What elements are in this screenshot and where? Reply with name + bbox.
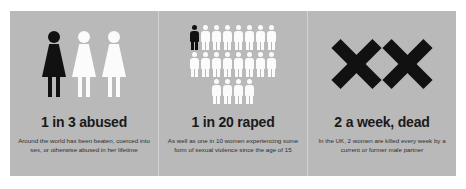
figure-leg-right <box>239 95 242 104</box>
person-figure <box>201 52 210 77</box>
figure-leg-left <box>108 77 112 97</box>
panel-headline: 1 in 3 abused <box>41 114 127 130</box>
figure-head <box>258 25 263 30</box>
figure-leg-left <box>268 41 271 50</box>
figure-leg-right <box>250 95 253 104</box>
person-figure-highlighted <box>190 25 199 50</box>
woman-figure <box>101 31 127 97</box>
figure-head <box>78 31 90 43</box>
panel-abused: 1 in 3 abused Around the world has been … <box>10 11 158 176</box>
figure-leg-right <box>239 41 242 50</box>
figure-leg-left <box>213 95 216 104</box>
figure-leg-left <box>48 77 52 97</box>
figure-leg-right <box>228 68 231 77</box>
figure-head <box>247 79 252 84</box>
figure-leg-right <box>56 77 60 97</box>
panel-caption: As well as one in 10 women experiencing … <box>167 136 299 154</box>
person-figure <box>256 25 265 50</box>
figure-head <box>225 52 230 57</box>
panel-caption: In the UK, 2 women are killed every week… <box>316 136 448 154</box>
twenty-people-icon <box>165 18 301 110</box>
figure-leg-left <box>202 68 205 77</box>
figure-leg-left <box>246 95 249 104</box>
person-figure <box>245 79 254 104</box>
person-figure <box>223 25 232 50</box>
figure-head <box>225 79 230 84</box>
figure-head <box>269 25 274 30</box>
figure-leg-left <box>235 95 238 104</box>
figure-head <box>236 79 241 84</box>
woman-figure <box>71 31 97 97</box>
figure-leg-right <box>217 41 220 50</box>
figure-head <box>269 52 274 57</box>
figure-head <box>192 25 197 30</box>
figure-leg-right <box>228 95 231 104</box>
figure-head <box>236 52 241 57</box>
panel-raped: 1 in 20 raped As well as one in 10 women… <box>158 11 307 176</box>
person-figure <box>201 25 210 50</box>
figure-head <box>192 52 197 57</box>
figure-leg-right <box>217 68 220 77</box>
figure-head <box>258 52 263 57</box>
figure-leg-left <box>202 41 205 50</box>
person-figure <box>223 79 232 104</box>
figure-head <box>247 25 252 30</box>
figure-body <box>72 44 96 77</box>
figure-head <box>48 31 60 43</box>
figure-head <box>225 25 230 30</box>
figure-head <box>108 31 120 43</box>
people-figure-grid <box>190 25 276 104</box>
person-figure <box>267 25 276 50</box>
panel-headline: 2 a week, dead <box>334 114 429 130</box>
figure-leg-right <box>86 77 90 97</box>
figure-leg-right <box>250 68 253 77</box>
x-mark-icon <box>334 41 380 87</box>
figure-leg-left <box>235 68 238 77</box>
figure-leg-left <box>224 68 227 77</box>
figure-body <box>102 44 126 77</box>
three-women-icon <box>16 18 152 110</box>
figure-leg-right <box>272 41 275 50</box>
figure-leg-right <box>250 41 253 50</box>
infographic-card: 1 in 3 abused Around the world has been … <box>10 11 456 176</box>
panel-headline: 1 in 20 raped <box>192 114 275 130</box>
figure-leg-left <box>224 41 227 50</box>
figure-body <box>42 44 66 77</box>
figure-leg-left <box>246 68 249 77</box>
figure-head <box>203 25 208 30</box>
person-figure <box>212 52 221 77</box>
figure-leg-left <box>246 41 249 50</box>
woman-figure-highlighted <box>41 31 67 97</box>
people-figure-row <box>190 52 276 77</box>
panel-dead: 2 a week, dead In the UK, 2 women are ki… <box>307 11 456 176</box>
infographic-page: 1 in 3 abused Around the world has been … <box>0 0 466 189</box>
person-figure <box>223 52 232 77</box>
figure-leg-left <box>191 41 194 50</box>
person-figure <box>212 25 221 50</box>
figure-head <box>214 79 219 84</box>
figure-head <box>214 52 219 57</box>
figure-leg-right <box>228 41 231 50</box>
person-figure <box>256 52 265 77</box>
figure-head <box>236 25 241 30</box>
person-figure <box>234 79 243 104</box>
person-figure <box>212 79 221 104</box>
figure-head <box>214 25 219 30</box>
double-x-icon <box>314 18 450 110</box>
figure-leg-right <box>239 68 242 77</box>
figure-leg-right <box>272 68 275 77</box>
figure-leg-left <box>191 68 194 77</box>
figure-leg-right <box>195 41 198 50</box>
figure-leg-left <box>257 68 260 77</box>
figure-leg-left <box>213 41 216 50</box>
figure-leg-left <box>268 68 271 77</box>
person-figure <box>190 52 199 77</box>
person-figure <box>245 25 254 50</box>
figure-leg-left <box>213 68 216 77</box>
figure-head <box>203 52 208 57</box>
figure-leg-right <box>195 68 198 77</box>
figure-leg-right <box>261 68 264 77</box>
figure-leg-left <box>235 41 238 50</box>
women-figure-row <box>41 31 127 97</box>
figure-leg-right <box>116 77 120 97</box>
